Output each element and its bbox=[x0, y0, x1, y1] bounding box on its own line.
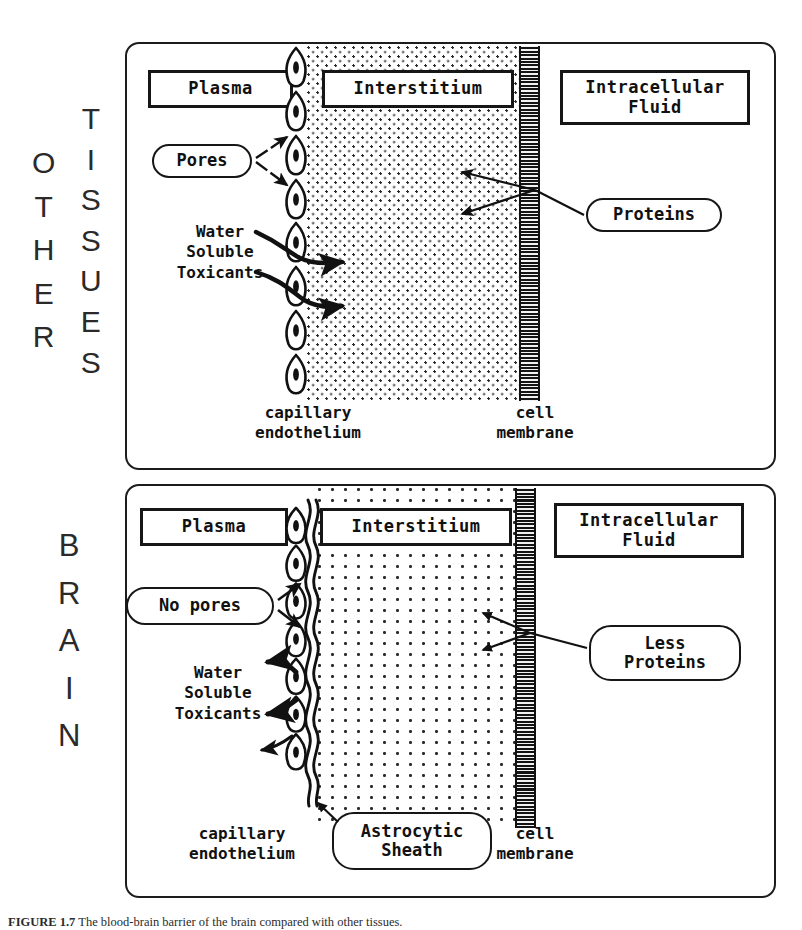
callout-pores: Pores bbox=[152, 144, 252, 178]
vtitle-letter: N bbox=[58, 720, 80, 752]
vtitle-letter: T bbox=[82, 104, 100, 135]
label-water-soluble-toxicants-other: Water Soluble Toxicants bbox=[150, 222, 290, 283]
label-water-soluble-toxicants-brain: Water Soluble Toxicants bbox=[148, 663, 288, 724]
label-capillary-endothelium-brain: capillary endothelium bbox=[147, 824, 337, 865]
region-label-plasma-brain: Plasma bbox=[140, 508, 288, 546]
label-capillary-endothelium-other: capillary endothelium bbox=[213, 403, 403, 444]
callout-less-proteins: Less Proteins bbox=[589, 625, 741, 681]
vtitle-letter: E bbox=[34, 279, 54, 310]
label-cell-membrane-other: cell membrane bbox=[470, 403, 600, 444]
callout-proteins: Proteins bbox=[586, 198, 722, 232]
vtitle-letter: B bbox=[59, 530, 80, 562]
region-label-interstitium-other: Interstitium bbox=[322, 70, 514, 108]
region-label-plasma-other: Plasma bbox=[148, 70, 293, 108]
figure-caption: FIGURE 1.7 The blood-brain barrier of th… bbox=[8, 915, 798, 930]
region-label-intracellular-fluid-other: Intracellular Fluid bbox=[560, 70, 750, 125]
vtitle-letter: E bbox=[81, 307, 101, 338]
vtitle-letter: I bbox=[87, 145, 95, 176]
figure-stage: O T H E R T I S S U E S B R A I N Plasma… bbox=[0, 0, 802, 930]
vtitle-letter: S bbox=[81, 348, 101, 379]
vtitle-letter: T bbox=[35, 192, 53, 223]
panel-title-other-tissues-primary: O T H E R bbox=[32, 148, 55, 366]
panel-title-other-tissues-secondary: T I S S U E S bbox=[80, 104, 102, 388]
vtitle-letter: S bbox=[81, 226, 101, 257]
figure-caption-label: FIGURE 1.7 bbox=[8, 915, 75, 929]
cell-membrane-other bbox=[519, 46, 540, 401]
region-label-interstitium-brain: Interstitium bbox=[320, 508, 512, 546]
figure-caption-text: The blood-brain barrier of the brain com… bbox=[78, 915, 402, 929]
vtitle-letter: R bbox=[58, 578, 80, 610]
region-label-intracellular-fluid-brain: Intracellular Fluid bbox=[554, 503, 744, 558]
label-cell-membrane-brain: cell membrane bbox=[470, 824, 600, 865]
vtitle-letter: I bbox=[65, 673, 74, 705]
cell-membrane-brain bbox=[515, 488, 536, 828]
vtitle-letter: O bbox=[32, 148, 55, 179]
vtitle-letter: S bbox=[81, 185, 101, 216]
vtitle-letter: U bbox=[80, 266, 102, 297]
callout-no-pores: No pores bbox=[126, 587, 274, 625]
callout-astrocytic-sheath: Astrocytic Sheath bbox=[332, 812, 492, 870]
vtitle-letter: H bbox=[33, 235, 55, 266]
panel-title-brain: B R A I N bbox=[58, 530, 80, 768]
vtitle-letter: R bbox=[33, 322, 55, 353]
vtitle-letter: A bbox=[59, 625, 80, 657]
